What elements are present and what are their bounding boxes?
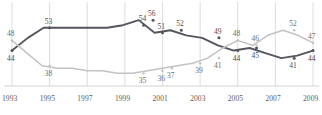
data-point-marker bbox=[161, 31, 164, 34]
data-point-marker bbox=[199, 62, 201, 64]
point-value-label: 53 bbox=[45, 17, 53, 26]
point-value-label: 45 bbox=[252, 51, 260, 60]
point-value-label: 37 bbox=[167, 71, 175, 80]
point-value-label: 56 bbox=[148, 9, 156, 18]
point-value-label: 38 bbox=[45, 69, 53, 78]
data-point-marker bbox=[236, 49, 239, 52]
point-value-label: 41 bbox=[289, 61, 297, 70]
point-value-label: 52 bbox=[289, 19, 297, 28]
point-value-label: 36 bbox=[158, 74, 166, 83]
data-point-marker bbox=[180, 29, 183, 32]
point-value-label: 52 bbox=[176, 19, 184, 28]
point-value-label: 49 bbox=[214, 27, 222, 36]
x-tick-label-2003: 2003 bbox=[190, 94, 205, 103]
data-point-marker bbox=[293, 29, 295, 31]
data-point-marker bbox=[217, 36, 220, 39]
point-value-label: 51 bbox=[158, 22, 166, 31]
x-tick-label-1995: 1995 bbox=[40, 94, 55, 103]
line-chart: 199319951997199920012003200520072009 445… bbox=[0, 0, 322, 115]
data-point-marker bbox=[161, 70, 163, 72]
x-tick-label-1997: 1997 bbox=[77, 94, 92, 103]
x-tick-label-1993: 1993 bbox=[2, 94, 17, 103]
data-point-marker bbox=[237, 39, 239, 41]
data-point-marker bbox=[142, 72, 144, 74]
data-point-marker bbox=[48, 65, 50, 67]
data-point-marker bbox=[152, 19, 155, 22]
point-value-label: 39 bbox=[195, 66, 203, 75]
data-point-marker bbox=[255, 44, 257, 46]
data-point-marker bbox=[48, 26, 51, 29]
data-point-marker bbox=[142, 24, 145, 27]
point-value-label: 47 bbox=[308, 32, 316, 41]
point-value-label: 46 bbox=[252, 34, 260, 43]
point-value-label: 54 bbox=[139, 14, 147, 23]
data-point-marker bbox=[293, 57, 296, 60]
point-value-label: 41 bbox=[214, 61, 222, 70]
x-tick-label-2009: 2009 bbox=[303, 94, 318, 103]
data-point-marker bbox=[312, 49, 315, 52]
point-value-label: 44 bbox=[7, 54, 15, 63]
data-point-marker bbox=[312, 42, 314, 44]
data-point-marker bbox=[11, 49, 14, 52]
data-point-marker bbox=[218, 57, 220, 59]
x-tick-label-2001: 2001 bbox=[153, 94, 168, 103]
x-tick-label-2007: 2007 bbox=[265, 94, 280, 103]
x-tick-label-1999: 1999 bbox=[115, 94, 130, 103]
point-value-label: 44 bbox=[308, 54, 316, 63]
data-point-marker bbox=[11, 39, 13, 41]
point-value-label: 44 bbox=[233, 54, 241, 63]
point-value-label: 48 bbox=[233, 29, 241, 38]
point-value-label: 35 bbox=[139, 76, 147, 85]
data-point-marker bbox=[255, 47, 258, 50]
point-value-label: 48 bbox=[7, 29, 15, 38]
data-point-marker bbox=[171, 67, 173, 69]
x-tick-label-2005: 2005 bbox=[228, 94, 243, 103]
